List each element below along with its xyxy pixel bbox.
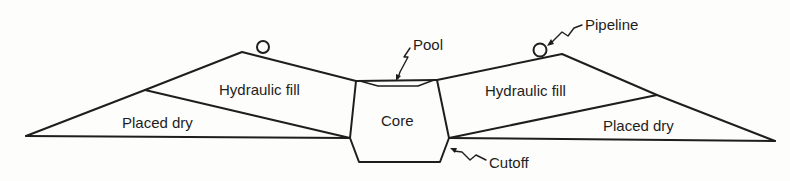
cutoff-leader-icon (454, 151, 486, 160)
right-placed-dry-label: Placed dry (603, 117, 674, 134)
right-base (449, 138, 775, 141)
pipeline-label: Pipeline (585, 16, 638, 33)
dam-cross-section-diagram: Hydraulic fill Placed dry Core Pool Hydr… (0, 0, 790, 181)
cutoff-label: Cutoff (489, 154, 530, 171)
pipeline-leader-icon (552, 25, 582, 42)
pipeline-arrowhead-icon (547, 39, 554, 46)
left-pipeline-icon (257, 41, 269, 53)
left-base (26, 136, 350, 138)
cutoff-arrowhead-icon (450, 148, 457, 153)
right-pipeline-icon (534, 44, 547, 57)
pool-leader-icon (398, 48, 410, 78)
pool-label: Pool (413, 36, 443, 53)
left-placed-dry-label: Placed dry (122, 114, 193, 131)
core-label: Core (381, 112, 414, 129)
right-hydraulic-fill-label: Hydraulic fill (485, 82, 566, 99)
left-hydraulic-fill-label: Hydraulic fill (219, 81, 300, 98)
